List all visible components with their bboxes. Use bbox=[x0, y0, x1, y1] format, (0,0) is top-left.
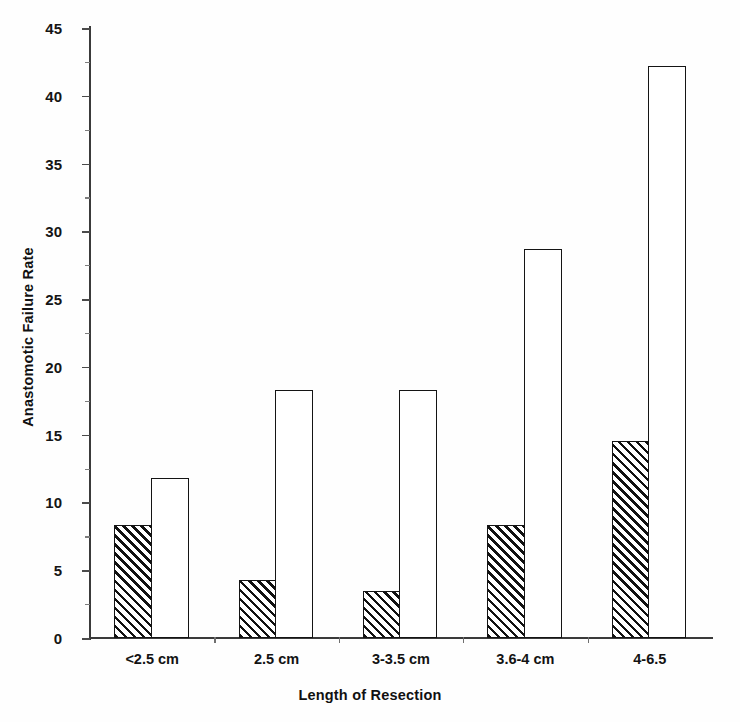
y-tick-label: 45 bbox=[16, 20, 62, 37]
y-tick-minor bbox=[85, 333, 90, 334]
y-tick-label: 40 bbox=[16, 87, 62, 104]
y-tick-major bbox=[82, 231, 90, 233]
bar-open bbox=[524, 249, 562, 638]
y-tick-minor bbox=[85, 604, 90, 605]
bar-open bbox=[275, 390, 313, 638]
y-tick-minor bbox=[85, 469, 90, 470]
y-tick-label: 25 bbox=[16, 291, 62, 308]
x-tick-label: <2.5 cm bbox=[125, 651, 179, 667]
x-tick-label: 2.5 cm bbox=[254, 651, 299, 667]
y-tick-label: 10 bbox=[16, 494, 62, 511]
y-tick-label: 30 bbox=[16, 223, 62, 240]
x-tick-label: 3-3.5 cm bbox=[372, 651, 430, 667]
y-tick-minor bbox=[85, 265, 90, 266]
bar-hatched bbox=[239, 580, 277, 638]
bar-hatched bbox=[487, 525, 525, 638]
y-tick-label: 15 bbox=[16, 426, 62, 443]
x-tick-label: 4-6.5 bbox=[633, 651, 666, 667]
bar-open bbox=[648, 66, 686, 638]
x-tick-label: 3.6-4 cm bbox=[496, 651, 554, 667]
y-tick-label: 0 bbox=[16, 630, 62, 647]
y-tick-label: 5 bbox=[16, 562, 62, 579]
x-axis-title: Length of Resection bbox=[0, 687, 740, 703]
y-tick-major bbox=[82, 299, 90, 301]
y-tick-label: 20 bbox=[16, 358, 62, 375]
bar-chart: Anastomotic Failure Rate 051015202530354… bbox=[0, 0, 740, 722]
y-tick-minor bbox=[85, 401, 90, 402]
bar-hatched bbox=[114, 525, 152, 638]
y-tick-minor bbox=[85, 536, 90, 537]
y-tick-major bbox=[82, 164, 90, 166]
bar-hatched bbox=[612, 441, 650, 638]
y-tick-major bbox=[82, 435, 90, 437]
y-tick-major bbox=[82, 96, 90, 98]
y-tick-minor bbox=[85, 62, 90, 63]
y-tick-major bbox=[82, 570, 90, 572]
y-tick-minor bbox=[85, 197, 90, 198]
y-tick-major bbox=[82, 28, 90, 30]
bar-hatched bbox=[363, 591, 401, 638]
x-tick-mark bbox=[463, 637, 464, 643]
bar-open bbox=[151, 478, 189, 638]
x-tick-mark bbox=[588, 637, 589, 643]
x-tick-mark bbox=[339, 637, 340, 643]
x-tick-mark bbox=[214, 637, 215, 643]
y-tick-label: 35 bbox=[16, 155, 62, 172]
bar-open bbox=[399, 390, 437, 638]
y-tick-minor bbox=[85, 130, 90, 131]
y-tick-major bbox=[82, 367, 90, 369]
y-tick-major bbox=[82, 638, 90, 640]
y-tick-major bbox=[82, 502, 90, 504]
